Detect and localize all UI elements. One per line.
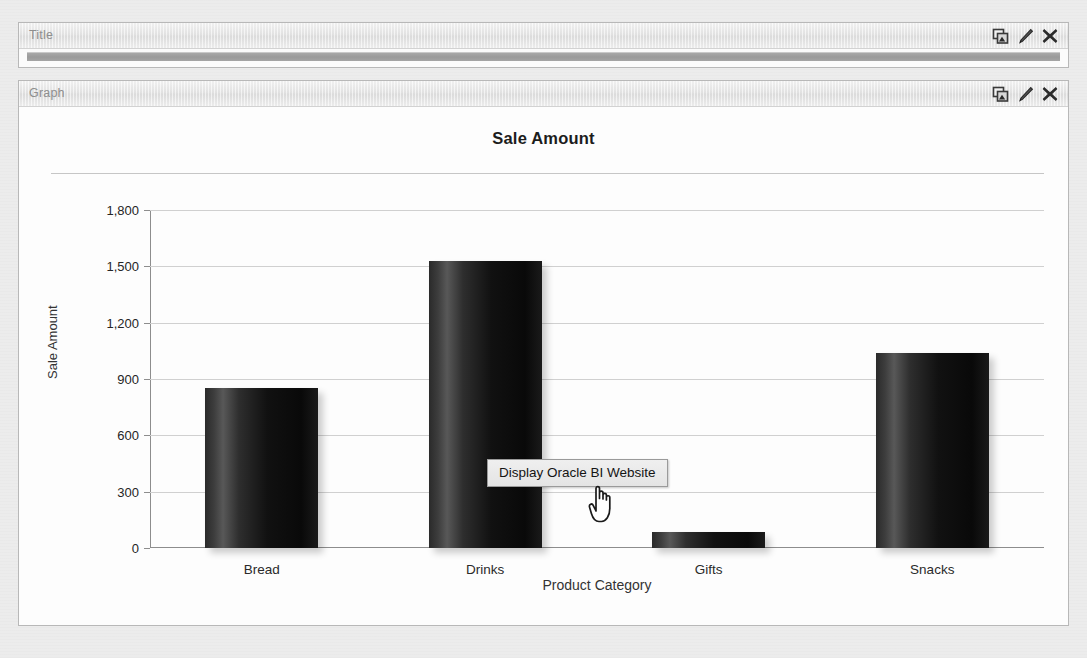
edit-pencil-icon[interactable] bbox=[1014, 83, 1036, 105]
y-axis-tick-label: 1,200 bbox=[106, 315, 139, 330]
title-panel: Title bbox=[18, 22, 1069, 68]
x-axis-category-label: Bread bbox=[244, 562, 280, 577]
title-panel-label: Title bbox=[29, 28, 53, 42]
x-axis-title: Product Category bbox=[150, 577, 1044, 593]
bar[interactable] bbox=[876, 353, 989, 548]
y-axis-tick bbox=[144, 548, 150, 549]
close-icon[interactable] bbox=[1039, 83, 1061, 105]
edit-pencil-icon[interactable] bbox=[1014, 25, 1036, 47]
graph-panel-header: Graph bbox=[19, 81, 1068, 107]
x-axis-category-label: Drinks bbox=[466, 562, 504, 577]
chart-title-divider bbox=[51, 173, 1044, 174]
plot-area: 03006009001,2001,5001,800BreadDrinksGift… bbox=[150, 210, 1044, 548]
bar[interactable] bbox=[652, 532, 765, 548]
bar-slot bbox=[374, 210, 598, 548]
title-panel-header: Title bbox=[19, 23, 1068, 49]
y-axis-tick-label: 600 bbox=[117, 428, 139, 443]
title-panel-header-actions bbox=[989, 25, 1061, 47]
title-panel-body bbox=[19, 49, 1068, 70]
y-axis-tick-label: 0 bbox=[132, 541, 139, 556]
copy-icon[interactable] bbox=[989, 83, 1011, 105]
graph-panel-header-actions bbox=[989, 83, 1061, 105]
bar[interactable] bbox=[205, 388, 318, 548]
graph-panel-body: Sale Amount Sale Amount Product Category… bbox=[19, 107, 1068, 625]
y-axis-title: Sale Amount bbox=[45, 305, 60, 379]
bar-slot bbox=[150, 210, 374, 548]
bar-slot bbox=[597, 210, 821, 548]
y-axis-tick-label: 300 bbox=[117, 484, 139, 499]
chart-title: Sale Amount bbox=[19, 129, 1068, 148]
graph-panel: Graph Sal bbox=[18, 80, 1069, 626]
y-axis-tick-label: 900 bbox=[117, 372, 139, 387]
title-placeholder-band bbox=[27, 52, 1060, 61]
bar[interactable] bbox=[429, 261, 542, 548]
x-axis-category-label: Snacks bbox=[910, 562, 954, 577]
close-icon[interactable] bbox=[1039, 25, 1061, 47]
bar-slot bbox=[821, 210, 1045, 548]
y-axis-tick-label: 1,800 bbox=[106, 203, 139, 218]
x-axis-category-label: Gifts bbox=[695, 562, 723, 577]
graph-panel-label: Graph bbox=[29, 86, 65, 100]
copy-icon[interactable] bbox=[989, 25, 1011, 47]
bar-chart[interactable]: Sale Amount Sale Amount Product Category… bbox=[19, 107, 1068, 625]
tooltip: Display Oracle BI Website bbox=[487, 459, 668, 487]
y-axis-tick-label: 1,500 bbox=[106, 259, 139, 274]
